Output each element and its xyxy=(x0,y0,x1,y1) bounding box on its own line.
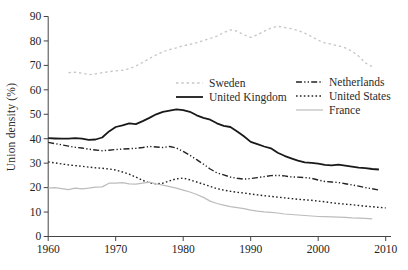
y-tick-label: 30 xyxy=(30,157,42,169)
legend-label-france: France xyxy=(329,103,360,117)
legend-label-netherlands: Netherlands xyxy=(329,75,385,89)
legend-swatch-france xyxy=(296,106,323,114)
x-tick-label: 1970 xyxy=(104,243,127,255)
legend-label-united-kingdom: United Kingdom xyxy=(209,90,287,104)
y-tick-label: 0 xyxy=(35,230,41,242)
legend-column-2: NetherlandsUnited StatesFrance xyxy=(296,75,391,117)
series-line-netherlands xyxy=(48,142,379,190)
y-tick-label: 10 xyxy=(30,206,42,218)
y-tick-label: 80 xyxy=(30,35,42,47)
legend-item-united-kingdom: United Kingdom xyxy=(176,90,287,104)
union-density-chart: 0102030405060708090196019701980199020002… xyxy=(0,0,408,270)
series-line-united-states xyxy=(48,162,386,208)
legend-swatch-united-states xyxy=(296,92,323,100)
legend-column-1: SwedenUnited Kingdom xyxy=(176,76,287,104)
legend-item-netherlands: Netherlands xyxy=(296,75,391,89)
legend-swatch-sweden xyxy=(176,79,203,87)
plot-canvas: 0102030405060708090196019701980199020002… xyxy=(0,0,408,270)
legend-label-united-states: United States xyxy=(329,89,391,103)
series-line-france xyxy=(48,182,372,219)
x-tick-label: 1990 xyxy=(239,243,262,255)
y-tick-label: 50 xyxy=(30,108,42,120)
series-line-sweden xyxy=(69,26,373,74)
x-tick-label: 1960 xyxy=(37,243,60,255)
series-line-united-kingdom xyxy=(48,109,379,169)
y-axis-title: Union density (%) xyxy=(5,83,17,171)
legend-item-united-states: United States xyxy=(296,89,391,103)
x-tick-label: 2000 xyxy=(307,243,330,255)
y-tick-label: 90 xyxy=(30,10,42,22)
legend-swatch-united-kingdom xyxy=(176,93,203,101)
y-tick-label: 70 xyxy=(30,59,42,71)
y-tick-label: 60 xyxy=(30,84,42,96)
legend-swatch-netherlands xyxy=(296,78,323,86)
legend-item-france: France xyxy=(296,103,391,117)
x-tick-label: 2010 xyxy=(374,243,397,255)
y-tick-label: 20 xyxy=(30,181,42,193)
legend-item-sweden: Sweden xyxy=(176,76,287,90)
legend-label-sweden: Sweden xyxy=(209,76,245,90)
y-tick-label: 40 xyxy=(30,133,42,145)
x-tick-label: 1980 xyxy=(172,243,195,255)
